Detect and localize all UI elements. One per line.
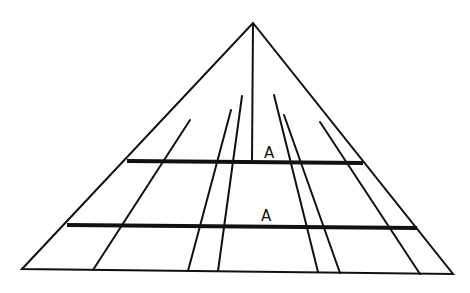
upper-bar-label: A bbox=[264, 146, 274, 161]
center-line bbox=[252, 23, 253, 162]
triangle-shape bbox=[22, 23, 453, 274]
lower-bar-label: A bbox=[261, 209, 271, 224]
converging-line-2 bbox=[188, 110, 231, 271]
vertical-center-line bbox=[252, 23, 253, 162]
horizontal-bars bbox=[67, 161, 417, 228]
converging-line-4 bbox=[274, 95, 318, 272]
converging-line-6 bbox=[320, 122, 420, 274]
converging-lines bbox=[93, 95, 420, 274]
upper-bar bbox=[127, 161, 363, 163]
ponzo-illusion-diagram bbox=[0, 0, 470, 293]
converging-line-3 bbox=[218, 96, 242, 271]
triangle-outline bbox=[22, 23, 453, 274]
